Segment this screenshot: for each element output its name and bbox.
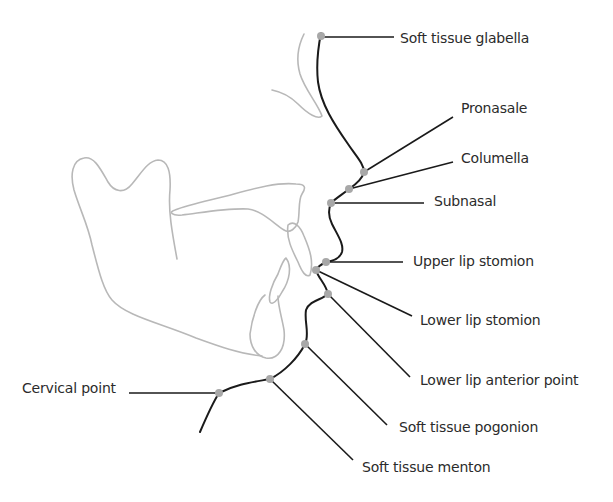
landmark-dot-pronasale: [360, 168, 368, 176]
label-lower-lip-anterior-point: Lower lip anterior point: [420, 372, 578, 388]
landmark-dot-soft-tissue-menton: [266, 375, 274, 383]
landmark-dot-lower-lip-stomion: [312, 266, 320, 274]
lower-incisor-outline: [269, 258, 289, 303]
label-pronasale: Pronasale: [461, 100, 527, 116]
mandible-outline: [72, 158, 262, 356]
leader-line-soft-tissue-pogonion: [305, 344, 387, 425]
label-cervical-point: Cervical point: [22, 380, 116, 396]
cephalometric-diagram: Soft tissue glabella Pronasale Columella…: [0, 0, 613, 502]
leader-line-pronasale: [364, 117, 453, 172]
label-soft-tissue-glabella: Soft tissue glabella: [400, 30, 529, 46]
leader-line-lower-lip-anterior-point: [328, 294, 410, 377]
label-subnasal: Subnasal: [434, 193, 496, 209]
landmark-dot-columella: [345, 185, 353, 193]
leader-line-soft-tissue-menton: [270, 379, 353, 460]
nasal-bone-outline: [272, 34, 322, 117]
label-lower-lip-stomion: Lower lip stomion: [420, 312, 540, 328]
label-soft-tissue-pogonion: Soft tissue pogonion: [399, 419, 538, 435]
landmark-dot-lower-lip-anterior-point: [324, 290, 332, 298]
label-columella: Columella: [461, 150, 529, 166]
landmark-dots: [215, 32, 368, 397]
label-upper-lip-stomion: Upper lip stomion: [413, 253, 534, 269]
label-soft-tissue-menton: Soft tissue menton: [362, 459, 490, 475]
landmark-dot-soft-tissue-pogonion: [301, 340, 309, 348]
landmark-dot-upper-lip-stomion: [322, 258, 330, 266]
bone-outlines: [72, 34, 322, 358]
symphysis-outline: [250, 295, 284, 358]
maxilla-outline: [171, 184, 304, 232]
landmark-dot-subnasal: [327, 199, 335, 207]
landmark-dot-cervical-point: [215, 389, 223, 397]
landmark-dot-soft-tissue-glabella: [317, 32, 325, 40]
